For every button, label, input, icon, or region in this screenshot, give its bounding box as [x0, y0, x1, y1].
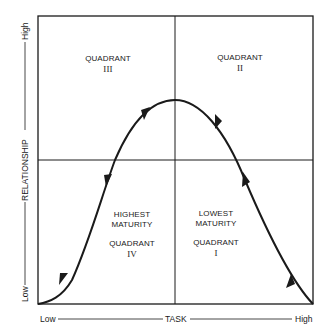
- arrow-icon-q2: [215, 114, 222, 129]
- quadrant-title: QUADRANT: [200, 53, 280, 63]
- quadrant-ii-label: QUADRANT II: [200, 53, 280, 73]
- maturity-note: HIGHEST: [92, 210, 172, 220]
- quadrant-title: QUADRANT: [68, 54, 148, 64]
- maturity-note: MATURITY: [92, 220, 172, 230]
- diagram-graphics: [0, 0, 331, 334]
- arrow-icon-q4-upper: [104, 174, 112, 187]
- quadrant-iii-label: QUADRANT III: [68, 54, 148, 74]
- x-axis-low: Low: [40, 314, 56, 324]
- maturity-quadrant-diagram: QUADRANT III QUADRANT II HIGHEST MATURIT…: [0, 0, 331, 334]
- quadrant-title: QUADRANT: [176, 238, 256, 248]
- arrow-icon-q3: [141, 107, 150, 120]
- arrow-icon-q4-lower: [59, 273, 68, 285]
- maturity-note: MATURITY: [176, 219, 256, 229]
- quadrant-numeral: III: [68, 64, 148, 74]
- y-axis-low: Low: [20, 286, 30, 302]
- quadrant-numeral: I: [176, 248, 256, 258]
- quadrant-iv-label: HIGHEST MATURITY QUADRANT IV: [92, 210, 172, 259]
- quadrant-title: QUADRANT: [92, 239, 172, 249]
- quadrant-numeral: IV: [92, 249, 172, 259]
- y-axis-high: High: [20, 23, 30, 40]
- x-axis-title: TASK: [165, 314, 187, 324]
- quadrant-i-label: LOWEST MATURITY QUADRANT I: [176, 209, 256, 258]
- x-axis-high: High: [295, 314, 312, 324]
- arrow-icon-q1-lower: [286, 274, 295, 288]
- y-axis-title: RELATIONSHIP: [20, 139, 30, 201]
- maturity-note: LOWEST: [176, 209, 256, 219]
- quadrant-numeral: II: [200, 63, 280, 73]
